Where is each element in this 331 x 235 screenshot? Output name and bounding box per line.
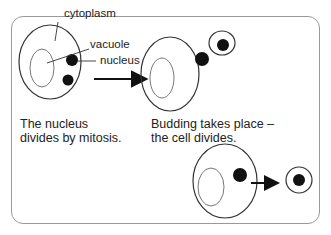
nucleus-2a: [195, 52, 209, 66]
nucleus-1b: [63, 75, 74, 86]
nucleus-2b: [217, 39, 229, 51]
cell-membrane-3: [193, 144, 257, 218]
caption-step2-line2: the cell divides.: [151, 131, 236, 145]
vacuole-2: [150, 58, 174, 98]
caption-step1-line2: divides by mitosis.: [20, 131, 121, 145]
label-nucleus: nucleus: [100, 54, 140, 67]
daughter-nucleus: [293, 174, 305, 186]
cell-membrane-2: [141, 37, 199, 111]
caption-step1-line1: The nucleus: [20, 117, 88, 131]
label-cytoplasm: cytoplasm: [64, 7, 116, 20]
cell-3: [193, 144, 257, 218]
cytoplasm-pointer: [55, 22, 58, 41]
nucleus-3: [233, 168, 247, 182]
caption-step2-line1: Budding takes place –: [151, 117, 274, 131]
cell-1: [19, 22, 96, 99]
vacuole-3: [198, 168, 224, 206]
label-vacuole: vacuole: [90, 38, 130, 51]
cell-2: [141, 31, 235, 111]
daughter-cell: [286, 167, 312, 193]
vacuole-1: [30, 49, 54, 87]
